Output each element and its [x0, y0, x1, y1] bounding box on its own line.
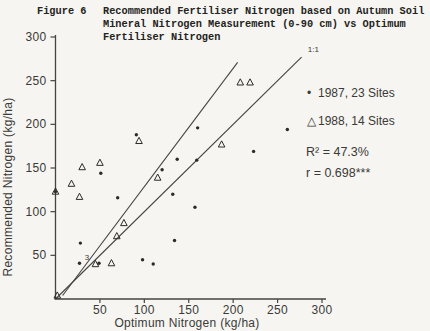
legend-marker-triangle: △ — [307, 114, 317, 128]
data-point-1987 — [160, 168, 163, 171]
data-point-1988 — [154, 174, 161, 180]
data-point-1988 — [68, 180, 75, 186]
y-tick-label: 300 — [26, 30, 47, 44]
data-point-1987 — [171, 193, 174, 196]
x-tick-label: 200 — [223, 303, 244, 317]
y-tick-label: 50 — [33, 248, 47, 262]
x-tick-label: 150 — [178, 303, 199, 317]
data-point-1987 — [176, 158, 179, 161]
data-point-1988 — [218, 141, 225, 147]
x-tick-label: 100 — [134, 303, 155, 317]
data-point-1988 — [79, 164, 86, 170]
y-tick-label: 250 — [26, 74, 47, 88]
x-tick-label: 250 — [267, 303, 288, 317]
data-point-1988 — [121, 219, 128, 225]
data-point-1987 — [252, 150, 255, 153]
one-to-one-line — [56, 57, 302, 299]
y-tick-label: 200 — [26, 117, 47, 131]
x-tick-label: 300 — [312, 303, 333, 317]
data-point-1987 — [193, 206, 196, 209]
data-point-1987 — [286, 128, 289, 131]
data-point-1988 — [247, 79, 254, 85]
x-tick-label: 50 — [93, 303, 107, 317]
data-point-1988 — [113, 233, 120, 239]
data-point-1988 — [76, 193, 83, 199]
cluster-count-label: 3 — [85, 253, 90, 262]
y-axis-title: Recommended Nitrogen (kg/ha) — [1, 97, 15, 276]
y-tick-label: 100 — [26, 205, 47, 219]
legend-label: 1988, 14 Sites — [318, 114, 395, 128]
data-point-1987 — [141, 258, 144, 261]
data-point-1988 — [97, 159, 104, 165]
r-value: r = 0.698*** — [306, 166, 370, 180]
data-point-1987 — [152, 262, 155, 265]
legend-label: 1987, 23 Sites — [318, 86, 395, 100]
data-point-1987 — [173, 239, 176, 242]
legend-marker-dot: • — [307, 86, 311, 100]
data-point-1987 — [135, 133, 138, 136]
data-point-1987 — [79, 241, 82, 244]
y-tick-label: 150 — [26, 161, 47, 175]
data-point-1987 — [116, 196, 119, 199]
r-squared-value: R² = 47.3% — [306, 145, 369, 159]
data-point-1988 — [237, 79, 244, 85]
data-point-1987 — [196, 126, 199, 129]
figure-6-page: Figure 6 Recommended Fertiliser Nitrogen… — [0, 0, 430, 331]
data-point-1987 — [99, 172, 102, 175]
data-point-1987 — [195, 158, 198, 161]
one-to-one-label: 1:1 — [308, 45, 320, 54]
x-axis-title: Optimum Nitrogen (kg/ha) — [114, 316, 259, 330]
data-point-1988 — [108, 260, 115, 266]
data-point-1988 — [136, 137, 143, 143]
data-point-1987 — [78, 261, 81, 264]
scatter-plot: 5010015020025030050100150200250300Optimu… — [0, 0, 430, 331]
